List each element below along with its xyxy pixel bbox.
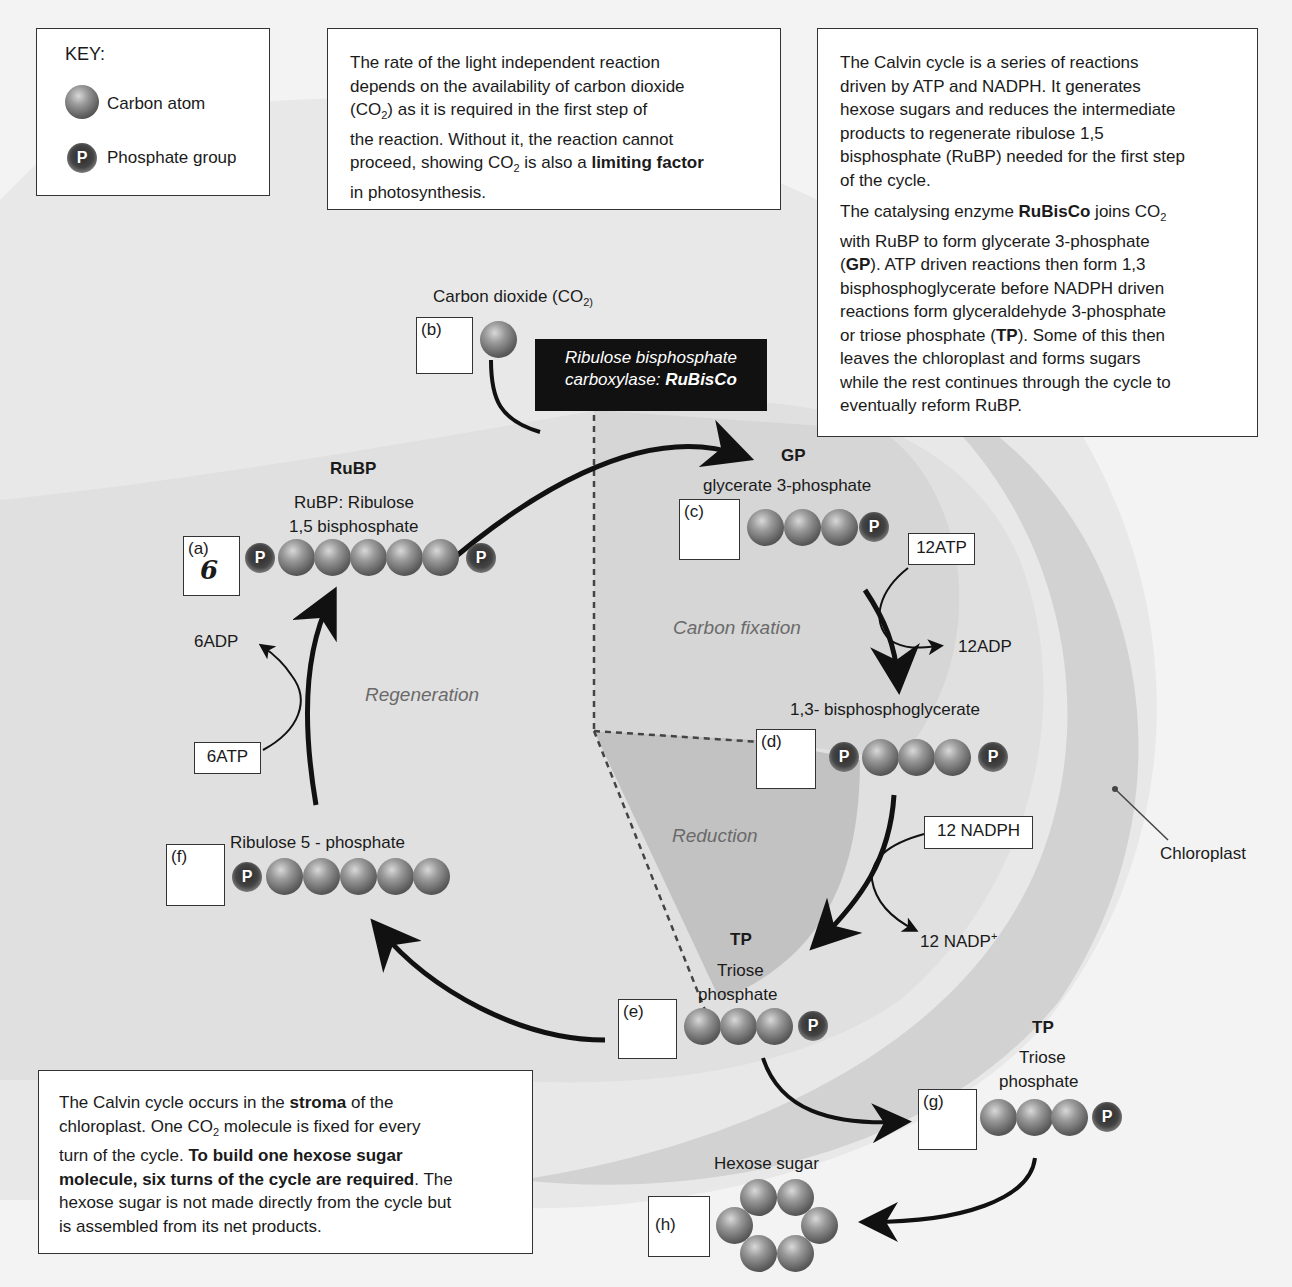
phosphate-group-icon: P	[466, 543, 496, 573]
answer-box-g[interactable]: (g)	[918, 1089, 977, 1150]
rubp-abbr: RuBP	[330, 458, 376, 480]
carbon-atom-icon	[740, 1235, 777, 1272]
phase-carbon-fixation: Carbon fixation	[673, 617, 801, 639]
carbon-atom-icon	[266, 858, 303, 895]
info-box-calvin-overview: The Calvin cycle is a series of reaction…	[817, 28, 1258, 437]
nadp-12-label: 12 NADP+	[920, 925, 997, 953]
phosphate-group-icon: P	[232, 862, 262, 892]
carbon-atom-icon	[777, 1235, 814, 1272]
info-line: (GP). ATP driven reactions then form 1,3	[840, 253, 1257, 277]
carbon-atom-icon	[821, 509, 858, 546]
answer-box-a[interactable]: (a) 6	[183, 536, 240, 596]
info-line: hexose sugars and reduces the intermedia…	[840, 98, 1257, 122]
nadph-12-box: 12 NADPH	[924, 816, 1033, 849]
gp-name: glycerate 3-phosphate	[703, 475, 871, 497]
carbon-atom-icon	[340, 858, 377, 895]
info-line: with RuBP to form glycerate 3-phosphate	[840, 230, 1257, 254]
carbon-atom-icon	[1051, 1099, 1088, 1136]
info-line: leaves the chloroplast and forms sugars	[840, 347, 1257, 371]
answer-box-b[interactable]: (b)	[416, 317, 473, 374]
hexose-name: Hexose sugar	[714, 1153, 819, 1175]
carbon-atom-icon	[720, 1008, 757, 1045]
tp-cycle-name-line2: phosphate	[698, 984, 777, 1006]
answer-box-d[interactable]: (d)	[756, 729, 816, 789]
phosphate-group-icon: P	[1092, 1102, 1122, 1132]
answer-box-e[interactable]: (e)	[618, 999, 677, 1059]
carbon-atom-icon	[377, 858, 414, 895]
phosphate-group-icon: P	[67, 143, 97, 173]
tp-out-name-line1: Triose	[1019, 1047, 1066, 1069]
chloroplast-label: Chloroplast	[1160, 843, 1246, 865]
phosphate-group-icon: P	[829, 742, 859, 772]
carbon-atom-icon	[350, 539, 387, 576]
adp-6-label: 6ADP	[194, 631, 238, 653]
info-box-stroma: The Calvin cycle occurs in the stroma of…	[38, 1070, 533, 1254]
info-line: the reaction. Without it, the reaction c…	[350, 128, 780, 152]
answer-box-f[interactable]: (f)	[166, 844, 225, 906]
info-line: in photosynthesis.	[350, 181, 780, 205]
carbon-atom-icon	[314, 539, 351, 576]
carbon-atom-icon	[65, 85, 99, 119]
answer-box-h[interactable]: (h)	[648, 1196, 710, 1257]
carbon-atom-icon	[413, 858, 450, 895]
co2-title: Carbon dioxide (CO2)	[433, 286, 593, 313]
info-line: eventually reform RuBP.	[840, 394, 1257, 418]
atp-12-box: 12ATP	[908, 533, 975, 565]
info-line: bisphosphoglycerate before NADPH driven	[840, 277, 1257, 301]
key-phosphate-label: Phosphate group	[107, 147, 237, 169]
info-box-co2-limiting: The rate of the light independent reacti…	[327, 28, 781, 210]
info-line: (CO2) as it is required in the first ste…	[350, 98, 780, 128]
phase-reduction: Reduction	[672, 825, 758, 847]
info-line: The rate of the light independent reacti…	[350, 51, 780, 75]
carbon-atom-icon	[862, 739, 899, 776]
info-line: or triose phosphate (TP). Some of this t…	[840, 324, 1257, 348]
carbon-atom-icon	[386, 539, 423, 576]
answer-box-c[interactable]: (c)	[679, 499, 740, 560]
info-line: depends on the availability of carbon di…	[350, 75, 780, 99]
info-line: while the rest continues through the cyc…	[840, 371, 1257, 395]
tp-cycle-name-line1: Triose	[717, 960, 764, 982]
atp-6-box: 6ATP	[194, 742, 261, 774]
key-title: KEY:	[65, 43, 105, 65]
r5p-name: Ribulose 5 - phosphate	[230, 832, 405, 854]
carbon-atom-icon	[278, 539, 315, 576]
carbon-atom-icon	[934, 739, 971, 776]
info-line: is assembled from its net products.	[59, 1215, 532, 1239]
rubp-name-line1: RuBP: Ribulose	[294, 492, 414, 514]
adp-12-label: 12ADP	[958, 636, 1012, 658]
phosphate-group-icon: P	[245, 543, 275, 573]
info-line: proceed, showing CO2 is also a limiting …	[350, 151, 780, 181]
phosphate-group-icon: P	[978, 742, 1008, 772]
carbon-atom-icon	[747, 509, 784, 546]
tp-out-name-line2: phosphate	[999, 1071, 1078, 1093]
tp-cycle-abbr: TP	[730, 929, 752, 951]
phosphate-group-icon: P	[798, 1011, 828, 1041]
key-carbon-label: Carbon atom	[107, 93, 205, 115]
gp-abbr: GP	[781, 445, 806, 467]
info-line: products to regenerate ribulose 1,5	[840, 122, 1257, 146]
rubp-name-line2: 1,5 bisphosphate	[289, 516, 419, 538]
info-line: The Calvin cycle occurs in the stroma of…	[59, 1091, 532, 1115]
info-line: reactions form glyceraldehyde 3-phosphat…	[840, 300, 1257, 324]
carbon-atom-icon	[303, 858, 340, 895]
phosphate-group-icon: P	[859, 512, 889, 542]
info-line: chloroplast. One CO2 molecule is fixed f…	[59, 1115, 532, 1145]
tp-out-abbr: TP	[1032, 1017, 1054, 1039]
carbon-atom-icon	[898, 739, 935, 776]
key-panel: KEY: Carbon atom P Phosphate group	[36, 28, 270, 196]
info-line: The Calvin cycle is a series of reaction…	[840, 51, 1257, 75]
carbon-atom-icon	[422, 539, 459, 576]
carbon-atom-icon	[784, 509, 821, 546]
carbon-atom-icon	[684, 1008, 721, 1045]
info-line: of the cycle.	[840, 169, 1257, 193]
info-line: molecule, six turns of the cycle are req…	[59, 1168, 532, 1192]
info-line: turn of the cycle. To build one hexose s…	[59, 1144, 532, 1168]
info-line: driven by ATP and NADPH. It generates	[840, 75, 1257, 99]
bpg-name: 1,3- bisphosphoglycerate	[790, 699, 980, 721]
info-line: bisphosphate (RuBP) needed for the first…	[840, 145, 1257, 169]
phase-regeneration: Regeneration	[365, 684, 479, 706]
rubisco-enzyme-label: Ribulose bisphosphate carboxylase: RuBis…	[535, 339, 767, 411]
carbon-atom-icon	[480, 321, 517, 358]
carbon-atom-icon	[756, 1008, 793, 1045]
info-line: hexose sugar is not made directly from t…	[59, 1191, 532, 1215]
